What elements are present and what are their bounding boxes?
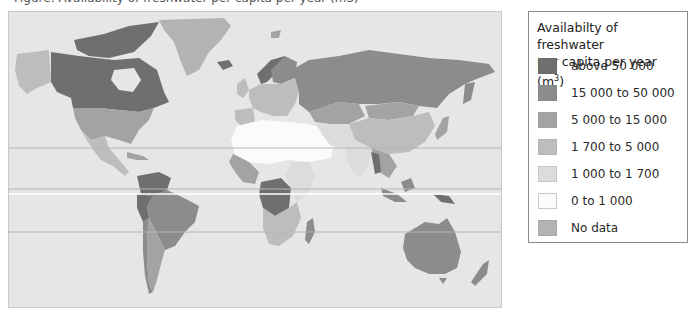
region-canada-islands xyxy=(74,22,159,58)
map-legend: Availabilty of freshwater per capita per… xyxy=(528,11,688,243)
region-madagascar xyxy=(305,218,315,244)
region-png xyxy=(433,194,455,204)
caption-text: Figure: Availability of freshwater per c… xyxy=(14,0,359,5)
region-europe xyxy=(249,78,299,116)
region-tasmania xyxy=(439,278,447,284)
region-uk xyxy=(237,78,249,98)
region-canada xyxy=(51,52,169,112)
legend-title-line1: Availabilty of freshwater xyxy=(537,19,687,53)
legend-item-no-data: No data xyxy=(538,220,688,238)
legend-item-5000-15000: 5 000 to 15 000 xyxy=(538,112,688,130)
legend-item-above-50000: above 50 000 xyxy=(538,58,688,76)
legend-swatch xyxy=(538,85,557,101)
legend-swatch xyxy=(538,220,557,236)
legend-swatch xyxy=(538,166,557,182)
region-alaska xyxy=(15,50,51,94)
legend-item-0-1000: 0 to 1 000 xyxy=(538,193,688,211)
legend-label: 5 000 to 15 000 xyxy=(571,112,667,129)
figure-caption: Figure: Availability of freshwater per c… xyxy=(0,0,520,8)
region-greenland xyxy=(159,18,231,76)
legend-item-1000-1700: 1 000 to 1 700 xyxy=(538,166,688,184)
legend-swatch xyxy=(538,112,557,128)
region-kamchatka xyxy=(463,82,475,104)
region-usa xyxy=(73,108,154,144)
region-borneo xyxy=(401,178,415,192)
region-japan xyxy=(435,116,449,140)
legend-label: 1 700 to 5 000 xyxy=(571,139,659,156)
legend-label: above 50 000 xyxy=(571,58,654,75)
legend-swatch xyxy=(538,193,557,209)
world-map xyxy=(8,11,502,308)
region-new-zealand xyxy=(471,260,489,286)
region-svalbard xyxy=(271,30,281,38)
legend-label: 15 000 to 50 000 xyxy=(571,85,675,102)
world-map-svg xyxy=(9,12,502,308)
region-iceland xyxy=(217,60,233,70)
legend-item-1700-5000: 1 700 to 5 000 xyxy=(538,139,688,157)
legend-label: No data xyxy=(571,220,618,237)
legend-swatch xyxy=(538,139,557,155)
region-caribbean xyxy=(127,152,149,160)
legend-label: 0 to 1 000 xyxy=(571,193,633,210)
legend-swatch xyxy=(538,58,557,74)
legend-label: 1 000 to 1 700 xyxy=(571,166,659,183)
legend-title: Availabilty of freshwater per capita per… xyxy=(537,19,687,90)
region-indonesia xyxy=(381,188,407,202)
legend-item-15000-50000: 15 000 to 50 000 xyxy=(538,85,688,103)
region-australia xyxy=(403,218,461,274)
